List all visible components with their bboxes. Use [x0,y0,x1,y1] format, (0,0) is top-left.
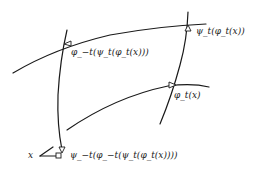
arrowhead-psi-minus-t [59,147,65,153]
label-phi-t-x: φ_t(x) [174,91,201,100]
label-psi-t-phi-t-x: ψ_t(φ_t(x)) [196,27,245,36]
arrowhead-psi-t [185,25,191,31]
right-psi-flow-curve [160,12,188,124]
label-psi-minus-t-phi-minus-t: ψ_−t(φ_−t(ψ_t(φ_t(x)))) [70,151,177,160]
label-x: x [28,151,33,160]
label-phi-minus-t-psi: φ_−t(ψ_t(φ_t(x))) [71,48,149,57]
x-diagonal-line [40,147,53,156]
end-point-marker [56,153,61,158]
